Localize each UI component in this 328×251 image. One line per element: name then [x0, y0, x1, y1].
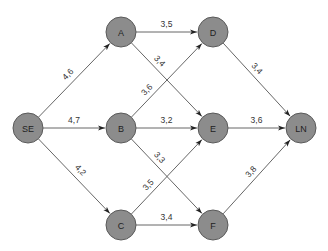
node-label-b: B [118, 124, 124, 134]
edge-label-se-a: 4,6 [60, 66, 76, 82]
edge-label-a-d: 3,5 [161, 19, 173, 29]
edge-label-e-ln: 3,6 [251, 115, 263, 125]
edge-se-c [38, 139, 110, 214]
node-f: F [198, 210, 228, 240]
node-label-c: C [118, 221, 125, 231]
node-e: E [198, 113, 228, 143]
edge-d-ln [223, 43, 290, 116]
edge-label-c-f: 3,4 [161, 212, 173, 222]
edge-b-d [131, 44, 202, 118]
node-label-e: E [210, 124, 216, 134]
edge-label-se-c: 4,2 [73, 162, 89, 178]
node-d: D [198, 17, 228, 47]
edge-label-b-e: 3,2 [161, 115, 173, 125]
node-label-d: D [210, 28, 217, 38]
node-label-a: A [118, 28, 124, 38]
network-diagram: 4,64,74,23,53,43,63,23,33,53,43,43,63,8 … [0, 0, 328, 251]
edge-label-se-b: 4,7 [68, 115, 80, 125]
node-a: A [106, 17, 136, 47]
node-se: SE [13, 113, 43, 143]
node-c: C [106, 210, 136, 240]
node-label-ln: LN [295, 124, 307, 134]
edge-labels-layer: 4,64,74,23,53,43,63,23,33,53,43,43,63,8 [60, 19, 265, 222]
edge-f-ln [223, 140, 290, 214]
node-b: B [106, 113, 136, 143]
edge-se-a [38, 43, 109, 117]
edge-c-e [131, 140, 202, 215]
edge-b-f [131, 139, 202, 214]
node-label-se: SE [22, 124, 34, 134]
nodes-layer: SEABCDEFLN [13, 17, 316, 240]
edge-a-e [131, 43, 202, 117]
node-label-f: F [210, 221, 216, 231]
node-ln: LN [286, 113, 316, 143]
